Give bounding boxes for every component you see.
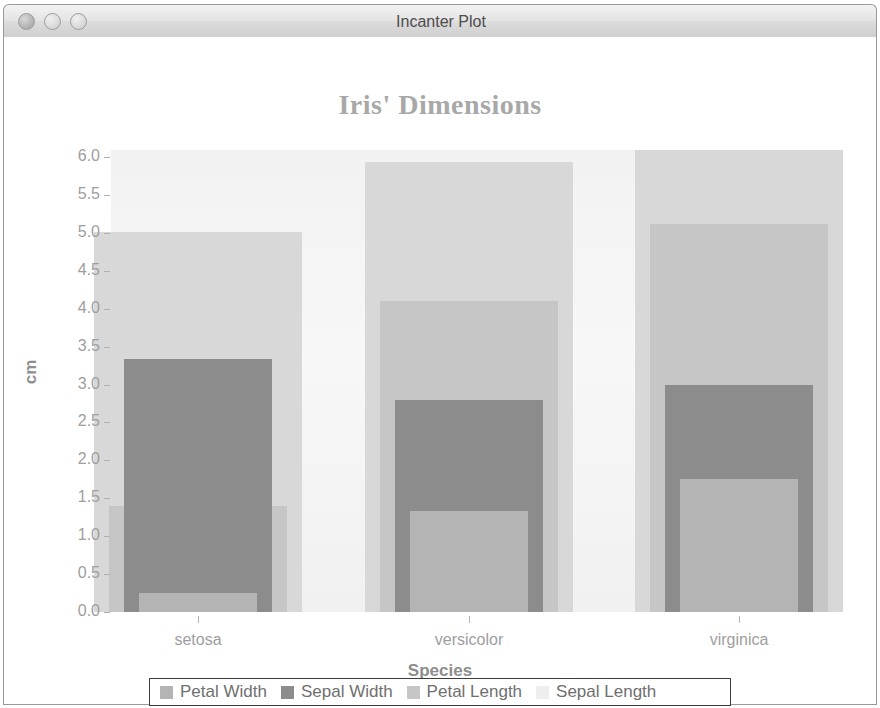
- window-body: Iris' Dimensions 0.00.51.01.52.02.53.03.…: [3, 37, 877, 705]
- y-tick-mark: [104, 309, 110, 310]
- y-tick-label: 0.5: [32, 564, 100, 582]
- y-tick-label: 4.0: [32, 299, 100, 317]
- legend-item-sepal-length[interactable]: Sepal Length: [536, 682, 656, 702]
- y-tick-mark: [104, 536, 110, 537]
- y-tick-mark: [104, 233, 110, 234]
- y-tick-mark: [104, 422, 110, 423]
- legend-label: Petal Width: [180, 682, 267, 702]
- y-tick-mark: [104, 460, 110, 461]
- chart-title: Iris' Dimensions: [4, 89, 876, 121]
- bar-petal-width-setosa: [139, 593, 257, 612]
- x-tick-mark: [739, 616, 740, 623]
- y-tick-label: 2.5: [32, 412, 100, 430]
- y-tick-mark: [104, 195, 110, 196]
- y-tick-mark: [104, 157, 110, 158]
- y-tick-label: 3.5: [32, 337, 100, 355]
- x-tick-label-virginica: virginica: [639, 631, 839, 649]
- plot-window: Incanter Plot Iris' Dimensions 0.00.51.0…: [0, 0, 880, 708]
- y-tick-mark: [104, 498, 110, 499]
- y-tick-mark: [104, 271, 110, 272]
- legend-label: Sepal Width: [301, 682, 393, 702]
- y-tick-label: 0.0: [32, 602, 100, 620]
- y-tick-label: 2.0: [32, 450, 100, 468]
- y-tick-label: 5.5: [32, 185, 100, 203]
- legend-item-sepal-width[interactable]: Sepal Width: [281, 682, 393, 702]
- y-tick-label: 4.5: [32, 261, 100, 279]
- y-tick-mark: [104, 612, 110, 613]
- y-tick-mark: [104, 347, 110, 348]
- legend-item-petal-width[interactable]: Petal Width: [160, 682, 267, 702]
- window-title: Incanter Plot: [4, 5, 878, 39]
- y-tick-label: 3.0: [32, 375, 100, 393]
- x-tick-label-versicolor: versicolor: [369, 631, 569, 649]
- y-tick-label: 6.0: [32, 147, 100, 165]
- y-tick-label: 1.5: [32, 488, 100, 506]
- y-tick-mark: [104, 385, 110, 386]
- chart-canvas: Iris' Dimensions 0.00.51.01.52.02.53.03.…: [4, 37, 876, 703]
- legend-swatch-icon: [407, 686, 420, 699]
- bar-petal-width-virginica: [680, 479, 798, 612]
- y-axis-label: cm: [21, 342, 41, 402]
- y-tick-mark: [104, 574, 110, 575]
- y-tick-label: 5.0: [32, 223, 100, 241]
- y-tick-label: 1.0: [32, 526, 100, 544]
- window-titlebar: Incanter Plot: [3, 4, 877, 38]
- legend-label: Petal Length: [427, 682, 522, 702]
- legend-item-petal-length[interactable]: Petal Length: [407, 682, 522, 702]
- legend-swatch-icon: [160, 686, 173, 699]
- legend-swatch-icon: [281, 686, 294, 699]
- x-tick-mark: [469, 616, 470, 623]
- chart-legend: Petal WidthSepal WidthPetal LengthSepal …: [149, 678, 731, 706]
- legend-label: Sepal Length: [556, 682, 656, 702]
- plot-area: [111, 150, 841, 612]
- bar-petal-width-versicolor: [410, 511, 528, 612]
- x-tick-mark: [198, 616, 199, 623]
- legend-swatch-icon: [536, 686, 549, 699]
- bar-sepal-width-setosa: [124, 359, 272, 612]
- x-tick-label-setosa: setosa: [98, 631, 298, 649]
